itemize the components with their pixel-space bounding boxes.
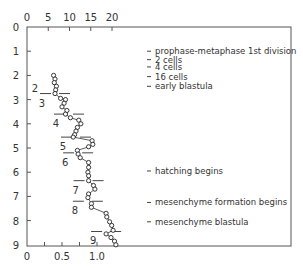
data-point xyxy=(105,215,109,219)
data-point xyxy=(104,232,108,236)
data-point xyxy=(53,91,57,95)
y-tick-label: 4 xyxy=(13,119,19,130)
annotation-label: hatching begins xyxy=(155,166,224,176)
data-point xyxy=(109,235,113,239)
data-point xyxy=(93,187,97,191)
y-axis: 0123456789 xyxy=(13,22,31,251)
y-tick-label: 7 xyxy=(13,191,19,202)
top-tick-label: 5 xyxy=(45,12,51,23)
event-annotations: prophase-metaphase 1st division2 cells4 … xyxy=(147,46,296,227)
y-tick-label: 6 xyxy=(13,167,19,178)
stage-label: 4 xyxy=(53,118,59,129)
y-tick-label: 5 xyxy=(13,143,19,154)
data-point xyxy=(111,228,115,232)
data-point xyxy=(60,105,64,109)
stage-label: 3 xyxy=(39,98,45,109)
data-point xyxy=(91,142,95,146)
y-tick-label: 9 xyxy=(13,240,19,251)
data-point xyxy=(63,112,67,116)
y-tick-label: 0 xyxy=(13,22,19,33)
bottom-tick-label: 1.0 xyxy=(89,251,105,262)
annotation-label: early blastula xyxy=(155,81,213,91)
top-tick-label: 15 xyxy=(84,12,97,23)
bottom-tick-label: 0.5 xyxy=(54,251,70,262)
stage-label: 5 xyxy=(60,141,66,152)
top-tick-label: 20 xyxy=(106,12,119,23)
top-tick-label: 0 xyxy=(24,12,30,23)
data-point xyxy=(78,156,82,160)
data-point xyxy=(68,116,72,120)
data-point xyxy=(59,96,63,100)
stage-label: 6 xyxy=(62,157,68,168)
top-tick-label: 10 xyxy=(63,12,76,23)
stage-label: 8 xyxy=(72,205,78,216)
data-point xyxy=(87,174,91,178)
data-point xyxy=(110,223,114,227)
stage-label: 2 xyxy=(32,83,38,94)
data-point xyxy=(87,145,91,149)
data-point xyxy=(86,196,90,200)
chart-svg: 05101520 00.51.0 0123456789 23456789 pro… xyxy=(0,0,303,268)
y-tick-label: 3 xyxy=(13,95,19,106)
data-point xyxy=(87,179,91,183)
data-point xyxy=(87,165,91,169)
data-point xyxy=(89,205,93,209)
stage-label: 7 xyxy=(72,185,78,196)
data-point xyxy=(87,160,91,164)
top-x-axis: 05101520 xyxy=(24,12,119,31)
y-tick-label: 1 xyxy=(13,46,19,57)
data-point xyxy=(114,243,118,247)
data-point xyxy=(71,135,75,139)
stage-label: 9 xyxy=(90,235,96,246)
data-point xyxy=(79,122,83,126)
annotation-label: mesenchyme blastula xyxy=(155,217,249,227)
annotation-label: mesenchyme formation begins xyxy=(155,197,288,207)
annotation-label: 4 cells xyxy=(155,62,183,72)
annotation-label: 16 cells xyxy=(155,72,188,82)
bottom-tick-label: 0 xyxy=(24,251,30,262)
y-tick-label: 8 xyxy=(13,216,19,227)
y-tick-label: 2 xyxy=(13,70,19,81)
